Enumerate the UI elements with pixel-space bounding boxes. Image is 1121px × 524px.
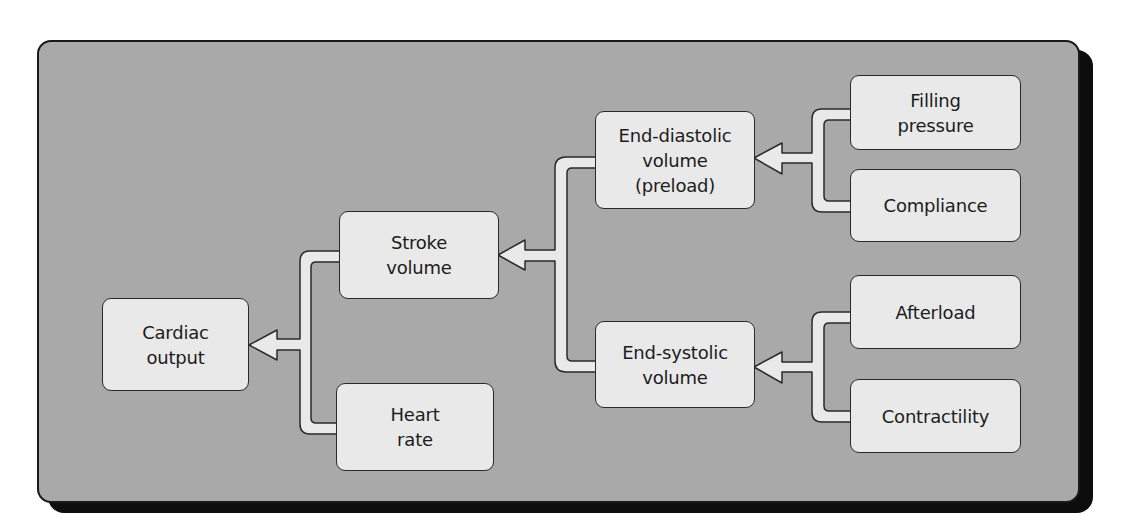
- node-stroke-volume: Stroke volume: [339, 211, 499, 299]
- node-afterload: Afterload: [850, 275, 1021, 349]
- node-cardiac-output: Cardiac output: [102, 298, 249, 391]
- node-compliance: Compliance: [850, 169, 1021, 242]
- connector-to-cardiac-output: [249, 251, 340, 434]
- node-heart-rate: Heart rate: [336, 383, 494, 471]
- node-contractility: Contractility: [850, 379, 1021, 453]
- connector-to-end-diastolic: [754, 109, 851, 212]
- node-end-systolic-volume: End-systolic volume: [595, 321, 755, 408]
- node-filling-pressure: Filling pressure: [850, 75, 1021, 150]
- connector-to-stroke-volume: [498, 157, 596, 372]
- node-end-diastolic-volume: End-diastolic volume (preload): [595, 111, 755, 209]
- connector-to-end-systolic: [754, 312, 851, 422]
